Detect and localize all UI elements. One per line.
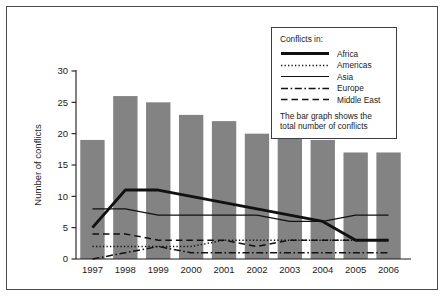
y-tick-label-5: 5: [63, 222, 68, 233]
legend-item-americas: Americas: [280, 60, 389, 72]
y-axis-title: Number of conflicts: [32, 124, 43, 206]
chart-legend: Conflicts in: Africa Americas Asia Europ…: [271, 27, 397, 139]
y-tick-label-20: 20: [57, 128, 68, 139]
x-tick-label-2003: 2003: [279, 264, 300, 275]
legend-label-europe: Europe: [337, 83, 364, 93]
x-tick-label-1998: 1998: [115, 264, 136, 275]
legend-swatch-middle-east: [280, 94, 330, 105]
bar-2000: [179, 115, 203, 259]
legend-swatch-americas: [280, 60, 330, 71]
y-tick-labels: 051015202530: [57, 65, 68, 264]
x-tick-label-2004: 2004: [312, 264, 333, 275]
bar-2006: [376, 152, 400, 259]
x-tick-label-1999: 1999: [148, 264, 169, 275]
legend-swatch-asia: [280, 71, 330, 82]
bar-2004: [311, 140, 335, 259]
y-tick-label-30: 30: [57, 65, 68, 76]
legend-item-africa: Africa: [280, 48, 389, 60]
x-tick-label-2005: 2005: [345, 264, 366, 275]
legend-note: The bar graph shows the total number of …: [280, 111, 389, 132]
legend-label-middle-east: Middle East: [337, 95, 380, 105]
x-tick-label-2000: 2000: [181, 264, 202, 275]
legend-swatch-europe: [280, 83, 330, 94]
bar-1997: [80, 140, 104, 259]
x-tick-label-2002: 2002: [246, 264, 267, 275]
x-tick-label-1997: 1997: [82, 264, 103, 275]
bar-1999: [146, 102, 170, 259]
x-tick-label-2006: 2006: [378, 264, 399, 275]
legend-label-africa: Africa: [337, 49, 358, 59]
legend-title: Conflicts in:: [280, 34, 389, 44]
bar-2001: [212, 121, 236, 259]
bar-2005: [343, 152, 367, 259]
y-axis-title-text: Number of conflicts: [32, 124, 43, 206]
x-tick-label-2001: 2001: [213, 264, 234, 275]
legend-note-line2: total number of conflicts: [280, 121, 389, 132]
y-tick-label-15: 15: [57, 159, 68, 170]
figure-frame: 1997199819992000200120022003200420052006…: [6, 6, 438, 290]
legend-item-middle-east: Middle East: [280, 94, 389, 106]
y-tick-label-0: 0: [63, 253, 68, 264]
y-tick-label-10: 10: [57, 191, 68, 202]
legend-note-line1: The bar graph shows the: [280, 111, 389, 122]
legend-item-asia: Asia: [280, 71, 389, 83]
legend-label-asia: Asia: [337, 72, 353, 82]
legend-item-europe: Europe: [280, 83, 389, 95]
x-tick-labels: 1997199819992000200120022003200420052006: [82, 264, 399, 275]
legend-swatch-africa: [280, 48, 330, 59]
y-tick-label-25: 25: [57, 97, 68, 108]
legend-label-americas: Americas: [337, 60, 372, 70]
